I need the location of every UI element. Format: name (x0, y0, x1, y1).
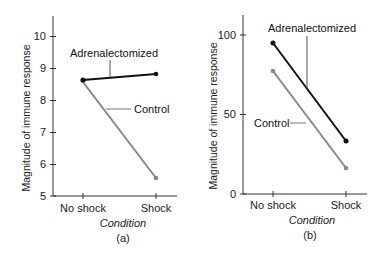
chart-a: 5 6 7 8 9 10 No shock Shock Condition (a… (20, 16, 177, 244)
chart-b: 0 50 100 No shock Shock Condition (b) Ma… (207, 15, 367, 241)
panel-label-b: (b) (303, 229, 316, 241)
annotation-control-a: Control (134, 103, 169, 115)
y-axis-title-b: Magnitude of immune response (207, 42, 219, 189)
x-tick-label: Shock (141, 202, 172, 214)
figure: 5 6 7 8 9 10 No shock Shock Condition (a… (0, 0, 380, 256)
data-point (154, 72, 159, 77)
data-point (344, 139, 349, 144)
data-point (80, 77, 85, 82)
x-tick-label: No shock (250, 199, 296, 211)
y-ticks-b: 0 50 100 (218, 29, 246, 200)
annotation-adrenalectomized-b: Adrenalectomized (268, 22, 356, 34)
y-tick-label: 100 (218, 29, 236, 41)
y-tick-label: 50 (224, 108, 236, 120)
annotation-control-b: Control (254, 117, 289, 129)
y-tick-label: 5 (40, 190, 46, 202)
series-control-a (83, 82, 156, 178)
data-point (271, 41, 276, 46)
panel-label-a: (a) (116, 232, 129, 244)
y-axis-title-a: Magnitude of immune response (20, 44, 32, 191)
y-tick-label: 0 (230, 188, 236, 200)
x-axis-title-a: Condition (100, 217, 146, 229)
y-tick-label: 10 (34, 30, 46, 42)
y-tick-label: 8 (40, 94, 46, 106)
data-point (344, 166, 349, 171)
y-tick-label: 7 (40, 126, 46, 138)
data-point (154, 176, 159, 181)
y-tick-label: 6 (40, 158, 46, 170)
annotation-adrenalectomized-a: Adrenalectomized (70, 47, 158, 59)
y-tick-label: 9 (40, 62, 46, 74)
x-tick-label: Shock (331, 199, 362, 211)
data-point (271, 69, 276, 74)
x-axis-title-b: Condition (289, 214, 335, 226)
x-tick-label: No shock (60, 202, 106, 214)
series-adrenalectomized-a (83, 74, 156, 80)
